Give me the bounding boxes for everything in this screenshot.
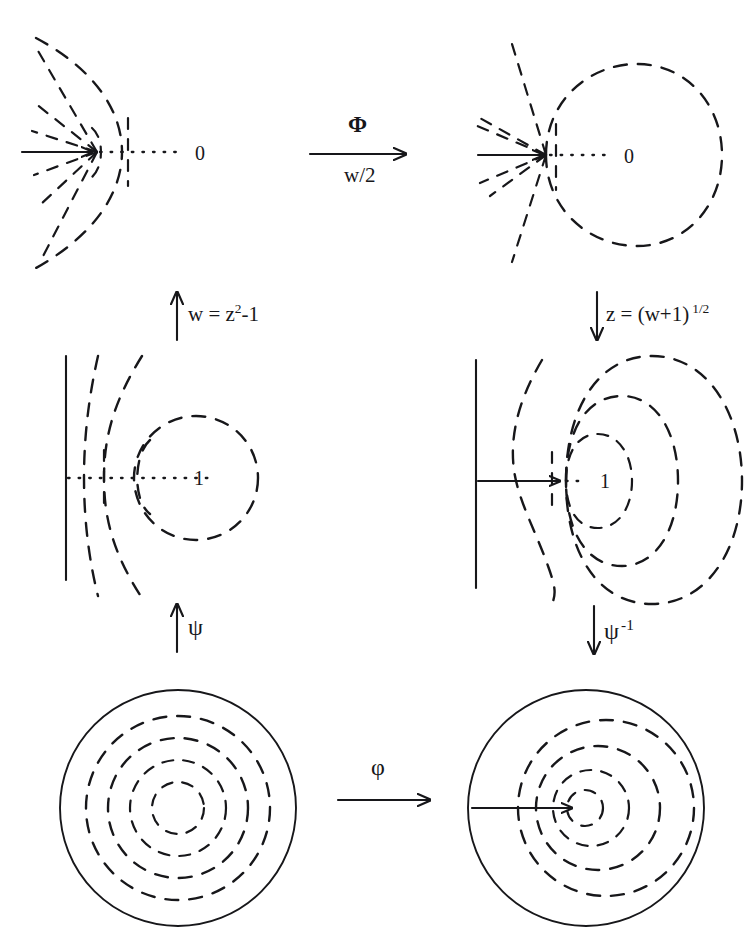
- panel-top-left: [22, 38, 182, 268]
- label-one-middle-right: 1: [600, 471, 610, 491]
- panel-bottom-right: [468, 690, 704, 926]
- psi-main: ψ: [604, 618, 619, 644]
- arrow-label-w-equals-z-squared-minus-1: w = z2-1: [188, 302, 259, 325]
- diagram-svg: [0, 0, 754, 948]
- panel-bottom-left: [60, 690, 296, 926]
- arrow-label-w-over-2: w/2: [344, 165, 376, 186]
- label-one-middle-left: 1: [194, 468, 204, 488]
- arrow-label-phi-small: φ: [371, 755, 385, 779]
- psi-sup: -1: [621, 616, 634, 633]
- panel-middle-left: [66, 356, 258, 598]
- equipotential-outer-middle-right: [566, 356, 742, 604]
- field-lines-top-right: [475, 44, 546, 262]
- eq-sup: 2: [235, 301, 242, 316]
- unit-circle-bottom-left: [60, 690, 296, 926]
- arrow-label-phi-capital: Φ: [348, 113, 367, 136]
- arrow-label-z-equals-w-plus-1-half: z = (w+1)1/2: [606, 302, 709, 325]
- dashed-circle-3-bottom-left: [130, 760, 226, 856]
- field-curve-1-middle-left: [84, 356, 98, 596]
- label-zero-top-right: 0: [624, 146, 634, 166]
- figure-canvas: 0 0 1 1 Φ w/2 w = z2-1 z = (w+1)1/2 ψ ψ-…: [0, 0, 754, 948]
- eq-tail: -1: [242, 302, 260, 326]
- arrow-label-psi-inverse: ψ-1: [604, 617, 634, 643]
- arrow-label-psi: ψ: [188, 615, 203, 639]
- dashed-circle-4-bottom-left: [152, 782, 204, 834]
- panel-top-right: [475, 44, 722, 262]
- equipotential-middle-middle-right: [566, 396, 678, 566]
- eq-main-right: z = (w+1): [606, 302, 689, 326]
- eq-main: w = z: [188, 302, 235, 326]
- eq-sup-right: 1/2: [692, 301, 709, 316]
- dashed-circle-1-bottom-left: [86, 716, 270, 900]
- label-zero-top-left: 0: [195, 143, 205, 163]
